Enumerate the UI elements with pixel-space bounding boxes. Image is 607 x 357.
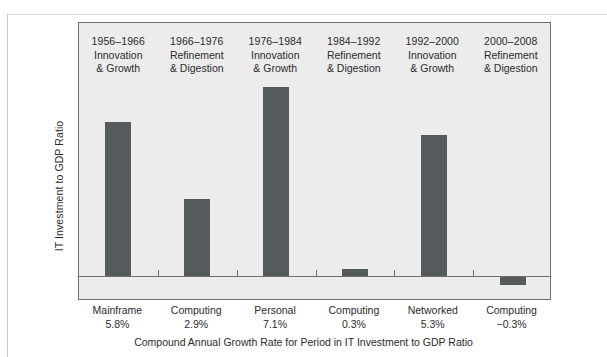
x-tick-name: Computing [472, 303, 551, 317]
bars-area [79, 23, 550, 299]
zero-axis-line [79, 276, 550, 277]
x-tick-label-2: Computing2.9% [157, 303, 236, 331]
x-tick-name: Computing [314, 303, 393, 317]
x-tick-label-row: Mainframe5.8%Computing2.9%Personal7.1%Co… [78, 303, 551, 331]
x-tick-label-5: Networked5.3% [393, 303, 472, 331]
x-tick-name: Networked [393, 303, 472, 317]
x-tick-name: Computing [157, 303, 236, 317]
x-tick-value: −0.3% [472, 317, 551, 331]
x-tick-label-4: Computing0.3% [314, 303, 393, 331]
bar-6[interactable] [500, 277, 526, 285]
x-tick-value: 5.8% [78, 317, 157, 331]
bar-3[interactable] [263, 87, 289, 277]
x-tick-name: Personal [236, 303, 315, 317]
x-tick-value: 0.3% [314, 317, 393, 331]
x-tick-label-6: Computing−0.3% [472, 303, 551, 331]
x-tick-label-3: Personal7.1% [236, 303, 315, 331]
bar-5[interactable] [421, 135, 447, 277]
x-tick-value: 5.3% [393, 317, 472, 331]
x-axis-label: Compound Annual Growth Rate for Period i… [0, 336, 607, 348]
x-tick-value: 2.9% [157, 317, 236, 331]
bar-1[interactable] [105, 122, 131, 277]
bar-chart-figure: IT Investment to GDP Ratio 1956–1966Inno… [0, 0, 607, 357]
x-tick-label-1: Mainframe5.8% [78, 303, 157, 331]
x-tick-name: Mainframe [78, 303, 157, 317]
plot-area: 1956–1966Innovation& Growth1966–1976Refi… [78, 22, 551, 300]
bar-2[interactable] [184, 199, 210, 277]
x-tick-value: 7.1% [236, 317, 315, 331]
y-axis-label: IT Investment to GDP Ratio [53, 86, 65, 286]
